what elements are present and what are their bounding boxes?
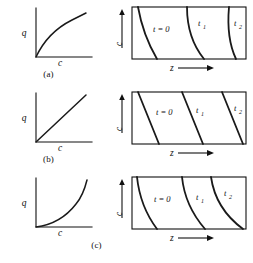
isotherm-axes-c xyxy=(36,178,92,227)
isotherm-ylabel-c: q xyxy=(22,198,27,208)
isotherm-xlabel-c: c xyxy=(58,228,63,238)
wave-yaxis-arrow-a xyxy=(119,9,125,15)
wave-front-t2-b xyxy=(222,92,243,144)
svg-text:t: t xyxy=(196,105,199,115)
wave-label-t0-c: t = 0 xyxy=(154,194,171,204)
svg-text:1: 1 xyxy=(201,198,204,204)
wave-label-t2-c: t 2 xyxy=(224,188,232,200)
wave-plot-b: c t = 0 t 1 t 2 z xyxy=(112,87,250,159)
wave-front-t1-b xyxy=(182,92,203,144)
isotherm-curve-c xyxy=(36,180,87,227)
wave-label-t1-c: t 1 xyxy=(196,192,204,204)
wave-label-t0-b: t = 0 xyxy=(156,107,173,117)
wave-label-t1-b: t 1 xyxy=(196,105,204,117)
wave-label-t0-a: t = 0 xyxy=(153,24,170,34)
isotherm-ylabel-b: q xyxy=(22,113,27,123)
isotherm-axes-a xyxy=(36,8,92,57)
isotherm-wave-figure: q c c t = 0 t xyxy=(0,0,253,263)
panel-c: q c c t = 0 t 1 t xyxy=(0,170,253,255)
wave-plot-c: c t = 0 t 1 t 2 z xyxy=(112,172,250,244)
isotherm-xlabel-a: c xyxy=(58,58,63,68)
isotherm-plot-a: q c xyxy=(14,2,106,68)
isotherm-curve-b xyxy=(36,95,86,142)
wave-front-t2-a xyxy=(228,7,236,59)
wave-label-t2-b: t 2 xyxy=(234,103,242,115)
wave-xaxis-arrow-b xyxy=(207,150,214,156)
svg-text:t: t xyxy=(224,188,227,198)
panel-a: q c c t = 0 t xyxy=(0,0,253,85)
wave-yaxis-arrow-c xyxy=(119,179,125,185)
isotherm-plot-b: q c xyxy=(14,87,106,153)
svg-text:1: 1 xyxy=(203,24,206,30)
svg-text:t: t xyxy=(198,18,201,28)
panel-caption-b: (b) xyxy=(0,154,175,164)
wave-front-t2-c xyxy=(211,177,243,229)
isotherm-ylabel-a: q xyxy=(22,28,27,38)
wave-label-t2-a: t 2 xyxy=(234,18,242,30)
wave-plot-a: c t = 0 t 1 t 2 xyxy=(112,2,250,74)
wave-front-t0-b xyxy=(138,92,159,144)
wave-yaxis-arrow-b xyxy=(119,94,125,100)
panel-b: q c c t = 0 t 1 t xyxy=(0,85,253,170)
wave-label-t1-a: t 1 xyxy=(198,18,206,30)
wave-front-t1-a xyxy=(187,7,204,59)
isotherm-curve-a xyxy=(36,13,86,57)
wave-xaxis-arrow-a xyxy=(207,65,214,71)
svg-text:1: 1 xyxy=(201,111,204,117)
svg-text:t: t xyxy=(196,192,199,202)
panel-caption-a: (a) xyxy=(0,69,175,79)
svg-text:t: t xyxy=(234,18,237,28)
isotherm-plot-c: q c xyxy=(14,172,106,238)
svg-text:t: t xyxy=(234,103,237,113)
svg-text:2: 2 xyxy=(239,109,242,115)
svg-text:2: 2 xyxy=(229,194,232,200)
svg-text:2: 2 xyxy=(239,24,242,30)
panel-caption-c: (c) xyxy=(0,240,223,250)
isotherm-xlabel-b: c xyxy=(58,143,63,153)
